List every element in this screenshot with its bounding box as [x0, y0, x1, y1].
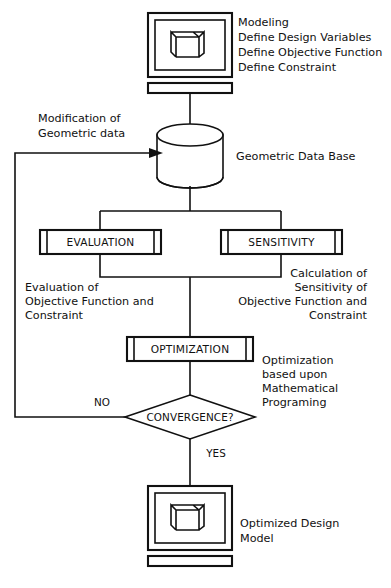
result-annotation-line-0: Optimized Design [240, 517, 339, 530]
result-annotation: Optimized Design Model [240, 517, 339, 545]
feedback-loop-annotation: Modification of Geometric data [38, 112, 125, 140]
sensitivity-node: SENSITIVITY [221, 230, 342, 254]
optimization-annotation: Optimization based upon Mathematical Pro… [262, 354, 338, 409]
flowchart-diagram: Modeling Define Design Variables Define … [0, 0, 391, 588]
evaluation-annotation-line-2: Constraint [25, 309, 84, 322]
optimization-box-label: OPTIMIZATION [151, 343, 230, 355]
evaluation-node: EVALUATION [40, 230, 161, 254]
database-label: Geometric Data Base [236, 150, 356, 163]
sensitivity-annotation-line-3: Constraint [309, 309, 368, 322]
convergence-node: CONVERGENCE? [125, 395, 255, 439]
evaluation-box-label: EVALUATION [67, 236, 135, 248]
database-cylinder-top [157, 124, 223, 146]
modeling-annotation: Modeling Define Design Variables Define … [238, 16, 382, 74]
modeling-annotation-line-1: Define Design Variables [238, 31, 372, 44]
optimization-annotation-line-1: based upon [262, 368, 327, 381]
sensitivity-annotation: Calculation of Sensitivity of Objective … [238, 267, 368, 322]
edge-merge-bus-bottom [100, 254, 281, 277]
modeling-monitor-node [148, 13, 232, 93]
result-monitor-stand [148, 556, 232, 566]
evaluation-annotation-line-1: Objective Function and [25, 295, 154, 308]
sensitivity-box-label: SENSITIVITY [248, 236, 315, 248]
sensitivity-annotation-line-1: Sensitivity of [294, 281, 368, 294]
result-monitor-node [148, 486, 232, 566]
optimization-annotation-line-3: Programing [262, 396, 327, 409]
modeling-monitor-stand [148, 83, 232, 93]
modeling-annotation-line-2: Define Objective Function [238, 46, 382, 59]
feedback-annotation-line-0: Modification of [38, 112, 122, 125]
geometric-database-node [157, 124, 223, 188]
feedback-annotation-line-1: Geometric data [38, 127, 125, 140]
sensitivity-annotation-line-2: Objective Function and [238, 295, 367, 308]
modeling-monitor-screen [155, 20, 225, 70]
convergence-yes-label: YES [205, 447, 226, 459]
modeling-annotation-line-3: Define Constraint [238, 61, 337, 74]
optimization-node: OPTIMIZATION [127, 337, 253, 361]
evaluation-annotation: Evaluation of Objective Function and Con… [25, 281, 154, 322]
convergence-diamond-label: CONVERGENCE? [146, 411, 233, 423]
result-monitor-screen [155, 493, 225, 543]
optimization-annotation-line-2: Mathematical [262, 382, 338, 395]
convergence-no-label: NO [94, 396, 110, 408]
modeling-annotation-line-0: Modeling [238, 16, 289, 29]
flowchart-canvas: Modeling Define Design Variables Define … [0, 0, 391, 588]
result-annotation-line-1: Model [240, 532, 274, 545]
evaluation-annotation-line-0: Evaluation of [25, 281, 99, 294]
optimization-annotation-line-0: Optimization [262, 354, 334, 367]
sensitivity-annotation-line-0: Calculation of [290, 267, 368, 280]
